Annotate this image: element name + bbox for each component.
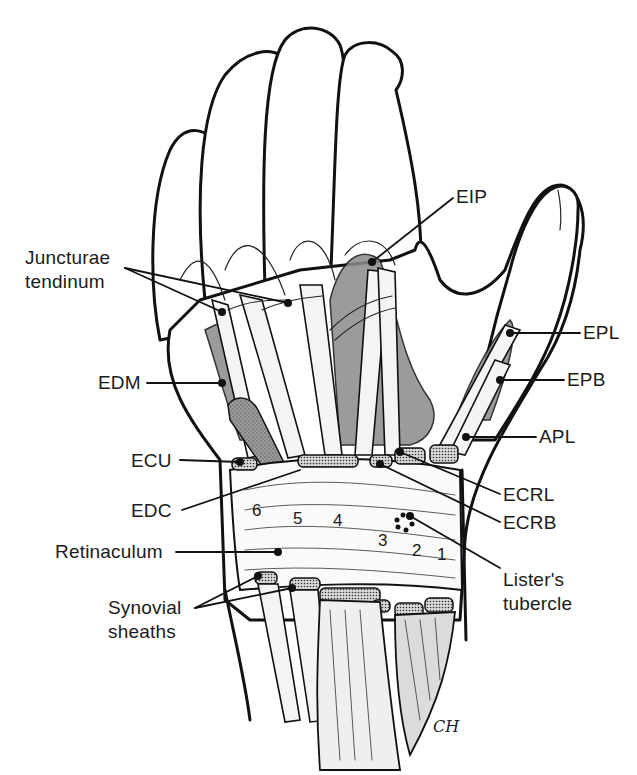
label-retinaculum: Retinaculum — [55, 541, 163, 563]
label-epb: EPB — [567, 369, 606, 391]
label-ecrb: ECRB — [503, 512, 557, 534]
artist-signature: CH — [433, 717, 459, 736]
compartment-1: 1 — [437, 546, 446, 564]
hand-illustration — [0, 0, 637, 775]
compartment-6: 6 — [252, 502, 261, 520]
retinaculum — [230, 459, 462, 590]
label-listers-tubercle: Lister's tubercle — [503, 568, 572, 616]
label-juncturae-tendinum: Juncturae tendinum — [25, 246, 110, 294]
label-eip: EIP — [456, 186, 487, 208]
label-synovial-sheaths: Synovial sheaths — [108, 596, 181, 644]
label-edm: EDM — [98, 372, 141, 394]
compartment-5: 5 — [293, 510, 302, 528]
label-ecu: ECU — [131, 450, 172, 472]
label-epl: EPL — [583, 322, 620, 344]
label-apl: APL — [539, 426, 576, 448]
wrist-anatomy-figure: Juncturae tendinum EIP EPL EPB APL EDM E… — [0, 0, 637, 775]
label-edc: EDC — [131, 500, 172, 522]
compartment-4: 4 — [333, 512, 342, 530]
label-ecrl: ECRL — [503, 484, 554, 506]
compartment-3: 3 — [378, 532, 387, 550]
compartment-2: 2 — [412, 542, 421, 560]
